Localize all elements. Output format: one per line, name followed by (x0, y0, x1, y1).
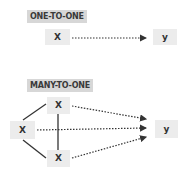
dotted-arrow (37, 128, 146, 130)
one-to-one-title: ONE-TO-ONE (27, 10, 87, 23)
solid-edge (23, 140, 46, 158)
solid-edge (23, 104, 46, 120)
many-to-one-source-node-left: X (10, 121, 35, 139)
one-to-one-target-node: y (153, 29, 177, 45)
many-to-one-target-node: y (155, 120, 178, 138)
many-to-one-title: MANY-TO-ONE (27, 79, 93, 92)
many-to-one-source-node-top: X (47, 97, 70, 114)
one-to-one-source-node: X (45, 29, 70, 45)
dotted-arrow (72, 106, 146, 119)
many-to-one-source-node-bottom: X (47, 150, 70, 167)
dotted-arrow (72, 137, 146, 158)
